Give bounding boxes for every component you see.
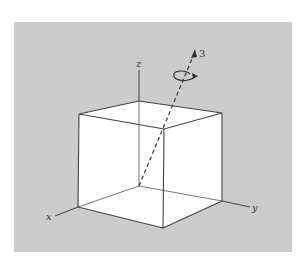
cube-rotation-diagram: z x y 3 [0,0,306,268]
y-axis-label: y [251,202,258,213]
x-axis-label: x [46,211,52,222]
rotation-axis-label: 3 [199,48,205,59]
z-axis-label: z [135,58,142,69]
cube [78,101,222,228]
